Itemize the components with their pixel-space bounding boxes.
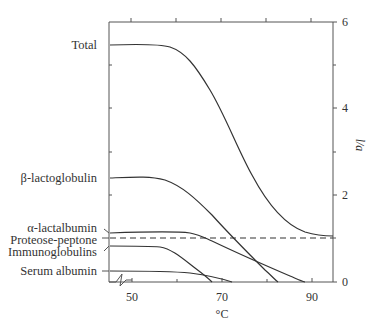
label-serum-albumin: Serum albumin: [20, 264, 97, 278]
chart: 50 70 90 °C 6 4 2 0 l/a Total β-lactoglo…: [0, 0, 386, 329]
series-total: [110, 44, 333, 236]
axis-break-icon: [109, 274, 132, 286]
x-axis-label: °C: [216, 307, 229, 321]
x-tick-90: 90: [306, 290, 318, 304]
label-beta-lactoglobulin: β-lactoglobulin: [21, 171, 98, 185]
series-beta-lactoglobulin: [110, 177, 278, 282]
y-axis-label: l/a: [353, 139, 367, 152]
series-immunoglobulins: [110, 246, 212, 282]
y-ticks: [109, 22, 337, 282]
x-tick-70: 70: [216, 290, 228, 304]
y-tick-6: 6: [342, 15, 348, 29]
label-total: Total: [71, 38, 97, 52]
label-leaders: [102, 229, 109, 271]
y-tick-4: 4: [342, 101, 348, 115]
y-tick-0: 0: [342, 275, 348, 289]
series-alpha-lactalbumin: [110, 232, 305, 282]
y-tick-2: 2: [342, 188, 348, 202]
x-tick-50: 50: [126, 290, 138, 304]
label-immunoglobulins: Immunoglobulins: [8, 245, 97, 259]
axes-frame: [109, 22, 333, 282]
x-ticks: [131, 18, 312, 282]
